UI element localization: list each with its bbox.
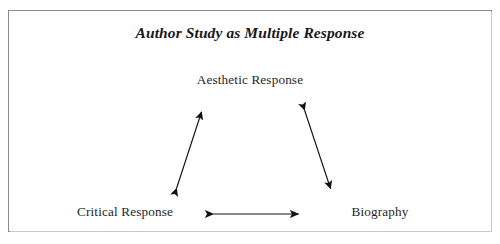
figure-title: Author Study as Multiple Response (0, 24, 500, 42)
node-critical-response: Critical Response (0, 204, 250, 220)
node-aesthetic-response: Aesthetic Response (0, 72, 500, 88)
figure-container: Author Study as Multiple Response Aesthe… (0, 0, 500, 244)
node-biography: Biography (320, 204, 440, 220)
figure-frame (8, 10, 492, 232)
